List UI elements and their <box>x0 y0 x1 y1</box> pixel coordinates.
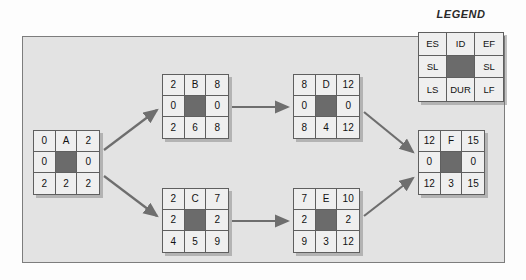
node-a-ls: 2 <box>34 173 56 194</box>
node-c-sl-left: 2 <box>163 210 185 231</box>
node-d-lf: 12 <box>337 117 359 138</box>
node-f-sl-left: 0 <box>419 152 441 173</box>
legend-cell-center <box>447 56 475 79</box>
legend-cell-sl-right: SL <box>475 56 503 79</box>
legend-title: LEGEND <box>418 8 504 20</box>
node-f-lf: 15 <box>462 173 484 194</box>
node-a-ef: 2 <box>77 131 99 152</box>
legend-cell-sl-left: SL <box>419 56 447 79</box>
node-b-dur: 6 <box>185 117 207 138</box>
legend-cell-lf: LF <box>475 78 503 101</box>
node-b-id: B <box>185 75 207 96</box>
node-a-lf: 2 <box>77 173 99 194</box>
node-a-id: A <box>56 131 78 152</box>
node-e-sl-right: 2 <box>337 210 359 231</box>
node-c-id: C <box>185 189 207 210</box>
node-b-sl-right: 0 <box>206 96 228 117</box>
node-d-id: D <box>316 75 338 96</box>
node-e-ls: 9 <box>294 231 316 252</box>
node-e-lf: 12 <box>337 231 359 252</box>
node-d-sl-left: 0 <box>294 96 316 117</box>
node-c-center <box>185 210 207 231</box>
node-b-ls: 2 <box>163 117 185 138</box>
activity-node-a: 0 A 2 0 0 2 2 2 <box>33 130 100 195</box>
node-b-es: 2 <box>163 75 185 96</box>
legend-cell-es: ES <box>419 33 447 56</box>
node-c-es: 2 <box>163 189 185 210</box>
node-c-sl-right: 2 <box>206 210 228 231</box>
legend-node: ES ID EF SL SL LS DUR LF <box>418 32 504 102</box>
activity-node-b: 2 B 8 0 0 2 6 8 <box>162 74 229 139</box>
node-f-es: 12 <box>419 131 441 152</box>
network-diagram-canvas: LEGEND ES ID EF SL SL LS DUR LF 0 A 2 0 … <box>0 0 526 280</box>
legend-cell-id: ID <box>447 33 475 56</box>
node-a-center <box>56 152 78 173</box>
activity-node-f: 12 F 15 0 0 12 3 15 <box>418 130 485 195</box>
node-f-id: F <box>441 131 463 152</box>
node-a-sl-right: 0 <box>77 152 99 173</box>
node-f-ef: 15 <box>462 131 484 152</box>
node-b-ef: 8 <box>206 75 228 96</box>
node-f-sl-right: 0 <box>462 152 484 173</box>
node-d-dur: 4 <box>316 117 338 138</box>
node-f-dur: 3 <box>441 173 463 194</box>
node-d-es: 8 <box>294 75 316 96</box>
node-b-lf: 8 <box>206 117 228 138</box>
node-e-dur: 3 <box>316 231 338 252</box>
node-d-ef: 12 <box>337 75 359 96</box>
node-d-ls: 8 <box>294 117 316 138</box>
node-e-ef: 10 <box>337 189 359 210</box>
node-e-center <box>316 210 338 231</box>
node-e-es: 7 <box>294 189 316 210</box>
node-b-sl-left: 0 <box>163 96 185 117</box>
node-c-dur: 5 <box>185 231 207 252</box>
node-a-es: 0 <box>34 131 56 152</box>
node-a-sl-left: 0 <box>34 152 56 173</box>
activity-node-d: 8 D 12 0 0 8 4 12 <box>293 74 360 139</box>
legend-cell-ef: EF <box>475 33 503 56</box>
legend-cell-ls: LS <box>419 78 447 101</box>
node-d-center <box>316 96 338 117</box>
node-e-id: E <box>316 189 338 210</box>
node-a-dur: 2 <box>56 173 78 194</box>
node-f-center <box>441 152 463 173</box>
activity-node-e: 7 E 10 2 2 9 3 12 <box>293 188 360 253</box>
legend-cell-dur: DUR <box>447 78 475 101</box>
node-d-sl-right: 0 <box>337 96 359 117</box>
node-b-center <box>185 96 207 117</box>
node-c-lf: 9 <box>206 231 228 252</box>
node-c-ls: 4 <box>163 231 185 252</box>
activity-node-c: 2 C 7 2 2 4 5 9 <box>162 188 229 253</box>
node-e-sl-left: 2 <box>294 210 316 231</box>
node-f-ls: 12 <box>419 173 441 194</box>
node-c-ef: 7 <box>206 189 228 210</box>
